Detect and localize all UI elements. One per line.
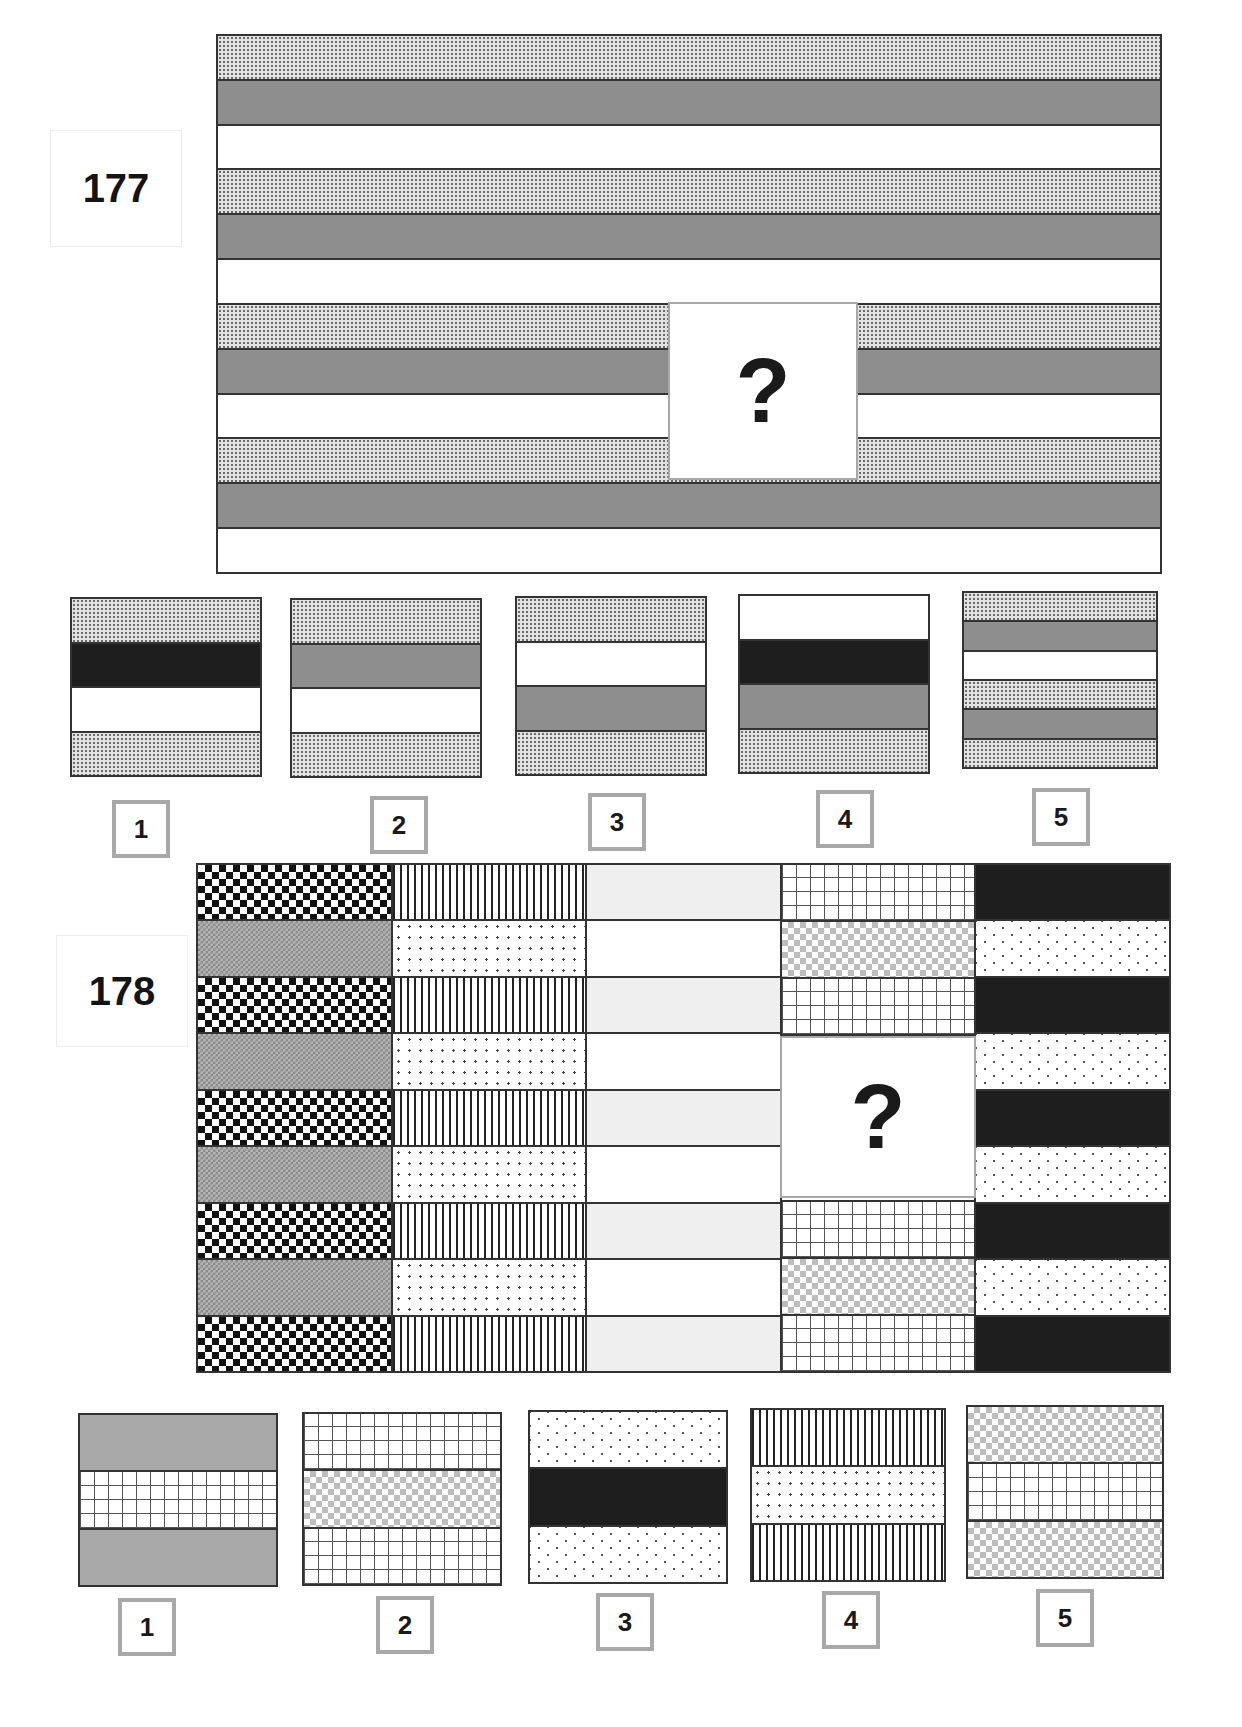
option-label-178-4[interactable]: 4 xyxy=(822,1591,880,1649)
stripe-dotted-grid xyxy=(304,1527,500,1584)
option-178-2[interactable] xyxy=(302,1412,502,1586)
stripe-dotted xyxy=(72,731,260,776)
cell-white xyxy=(587,1032,780,1088)
option-177-2[interactable] xyxy=(290,598,482,778)
stripe-dotted-grid xyxy=(968,1462,1162,1519)
stripe-gray xyxy=(218,213,1160,258)
cell-black xyxy=(976,976,1169,1032)
stripe-vertical-lines xyxy=(752,1523,944,1580)
stripe-chevron-dots xyxy=(530,1412,726,1467)
stripe-white xyxy=(292,687,480,732)
cell-white xyxy=(587,1145,780,1201)
stripe-dotted xyxy=(292,732,480,777)
option-177-1[interactable] xyxy=(70,597,262,777)
cell-crosshatch xyxy=(198,1032,391,1088)
problem-178-main-figure xyxy=(196,863,1171,1373)
option-177-4[interactable] xyxy=(738,594,930,774)
stripe-checker xyxy=(968,1407,1162,1462)
option-178-4[interactable] xyxy=(750,1408,946,1582)
cell-vertical-lines xyxy=(393,976,586,1032)
stripe-dotted xyxy=(740,728,928,773)
cell-black xyxy=(976,1089,1169,1145)
option-label-178-2[interactable]: 2 xyxy=(376,1596,434,1654)
cell-dotted-grid xyxy=(782,977,975,1034)
cell-diamond xyxy=(198,1202,391,1258)
stripe-white xyxy=(517,641,705,686)
cell-diamond xyxy=(198,1315,391,1371)
stripe-white xyxy=(72,686,260,731)
cell-white xyxy=(587,919,780,975)
stripe-gray xyxy=(292,643,480,688)
cell-diamond xyxy=(198,976,391,1032)
cell-black xyxy=(976,1202,1169,1258)
cell-pale-gray xyxy=(587,865,780,919)
cell-crosshatch xyxy=(198,1258,391,1314)
column-2 xyxy=(391,865,586,1371)
cell-diamond xyxy=(198,1089,391,1145)
problem-number-178: 178 xyxy=(56,935,188,1047)
missing-piece-178: ? xyxy=(780,1036,976,1198)
cell-chevron-dots xyxy=(976,919,1169,975)
stripe-gray xyxy=(218,79,1160,124)
stripe-dotted xyxy=(964,738,1156,767)
cell-vertical-lines xyxy=(393,1202,586,1258)
stripe-dotted xyxy=(292,600,480,643)
stripe-dotted xyxy=(517,598,705,641)
cell-dotted-grid xyxy=(782,865,975,920)
column-3 xyxy=(585,865,780,1371)
option-178-5[interactable] xyxy=(966,1405,1164,1579)
stripe-white xyxy=(740,596,928,639)
stripe-checker xyxy=(304,1469,500,1526)
cell-chevron-dots xyxy=(976,1032,1169,1088)
option-177-5[interactable] xyxy=(962,591,1158,769)
column-1 xyxy=(198,865,391,1371)
cell-black xyxy=(976,865,1169,919)
stripe-chevron-dots xyxy=(530,1525,726,1582)
option-label-178-5[interactable]: 5 xyxy=(1036,1589,1094,1647)
option-178-1[interactable] xyxy=(78,1413,278,1587)
cell-pale-gray xyxy=(587,1202,780,1258)
cell-sparse-dots xyxy=(393,1145,586,1201)
cell-crosshatch xyxy=(198,919,391,975)
stripe-dotted xyxy=(218,36,1160,79)
cell-sparse-dots xyxy=(393,1258,586,1314)
stripe-checker xyxy=(968,1520,1162,1577)
option-label-177-3[interactable]: 3 xyxy=(588,793,646,851)
option-label-177-1[interactable]: 1 xyxy=(112,800,170,858)
cell-chevron-dots xyxy=(976,1145,1169,1201)
cell-black xyxy=(976,1315,1169,1371)
stripe-white xyxy=(218,124,1160,169)
stripe-gray xyxy=(218,482,1160,527)
cell-sparse-dots xyxy=(393,1032,586,1088)
option-177-3[interactable] xyxy=(515,596,707,776)
cell-pale-gray xyxy=(587,1315,780,1371)
stripe-white xyxy=(964,650,1156,679)
cell-vertical-lines xyxy=(393,1089,586,1145)
option-label-177-2[interactable]: 2 xyxy=(370,796,428,854)
cell-pale-gray xyxy=(587,1089,780,1145)
cell-vertical-lines xyxy=(393,865,586,919)
stripe-white xyxy=(218,258,1160,303)
stripe-dotted xyxy=(72,599,260,642)
option-label-177-5[interactable]: 5 xyxy=(1032,788,1090,846)
stripe-black xyxy=(530,1467,726,1524)
cell-vertical-lines xyxy=(393,1315,586,1371)
stripe-white xyxy=(218,527,1160,572)
stripe-dotted-grid xyxy=(80,1470,276,1527)
option-label-177-4[interactable]: 4 xyxy=(816,790,874,848)
stripe-dotted-grid xyxy=(304,1414,500,1469)
stripe-dotted xyxy=(964,679,1156,708)
stripe-gray xyxy=(964,620,1156,649)
stripe-gray xyxy=(80,1528,276,1585)
cell-checker xyxy=(782,1257,975,1314)
cell-chevron-dots xyxy=(976,1258,1169,1314)
cell-sparse-dots xyxy=(393,919,586,975)
option-178-3[interactable] xyxy=(528,1410,728,1584)
option-label-178-3[interactable]: 3 xyxy=(596,1593,654,1651)
cell-dotted-grid xyxy=(782,1314,975,1371)
option-label-178-1[interactable]: 1 xyxy=(118,1598,176,1656)
column-5 xyxy=(974,865,1169,1371)
stripe-dotted xyxy=(218,168,1160,213)
cell-pale-gray xyxy=(587,976,780,1032)
problem-number-177: 177 xyxy=(50,130,182,247)
